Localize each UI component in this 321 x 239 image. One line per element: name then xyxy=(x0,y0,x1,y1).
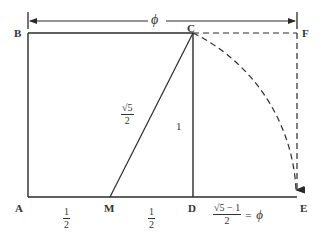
point-label-B: B xyxy=(14,28,21,39)
point-label-E: E xyxy=(300,203,307,214)
label-CD: 1 xyxy=(176,121,182,132)
point-label-D: D xyxy=(188,203,196,214)
phi-dimension xyxy=(28,12,297,29)
fraction-MC: √5 2 xyxy=(121,103,134,126)
point-label-F: F xyxy=(302,28,309,39)
point-label-M: M xyxy=(104,203,114,214)
phi-result: ϕ xyxy=(256,207,263,223)
equals-sign: = xyxy=(245,209,251,221)
equation-DE: √5 − 1 2 = ϕ xyxy=(213,203,263,226)
point-label-A: A xyxy=(15,203,23,214)
square-ABCD xyxy=(28,33,297,197)
fraction-MD: 1 2 xyxy=(148,207,155,230)
fraction-DE: √5 − 1 2 xyxy=(213,203,241,226)
point-label-C: C xyxy=(187,23,195,34)
diagram-canvas xyxy=(0,0,321,239)
fraction-AM: 1 2 xyxy=(63,207,70,230)
phi-label: ϕ xyxy=(151,13,158,27)
arc-CE-dashed xyxy=(193,33,296,190)
